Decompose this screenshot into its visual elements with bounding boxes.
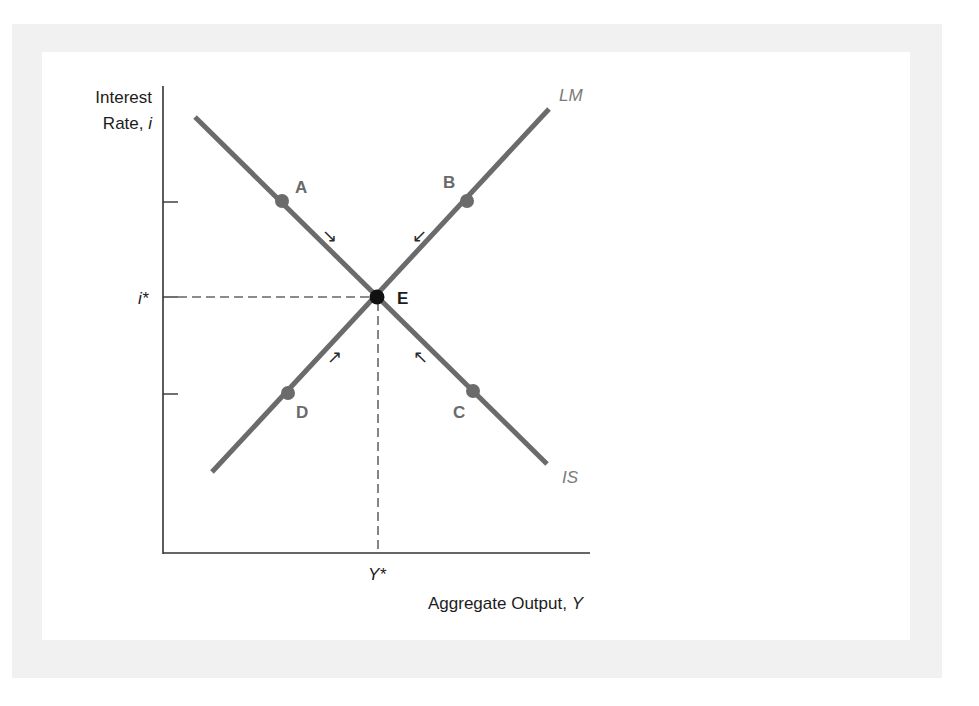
point-a xyxy=(275,194,289,208)
label-e: E xyxy=(397,289,408,308)
point-d xyxy=(281,386,295,400)
x-axis-title: Aggregate Output, Y xyxy=(428,594,585,613)
point-b xyxy=(460,194,474,208)
is-lm-diagram: A B C D E ↘ ↙ ↖ ↗ LM IS i* Y* Interest R… xyxy=(0,0,979,706)
label-d: D xyxy=(296,403,308,422)
arrow-down-right-icon: ↘ xyxy=(322,226,337,246)
arrow-up-left-icon: ↖ xyxy=(413,347,428,367)
y-axis-title-line2: Rate, i xyxy=(103,114,153,133)
label-a: A xyxy=(295,178,307,197)
label-c: C xyxy=(453,403,465,422)
y-axis-title-line1: Interest xyxy=(95,88,152,107)
is-curve-label: IS xyxy=(562,468,579,487)
lm-curve-label: LM xyxy=(559,86,583,105)
point-e-equilibrium xyxy=(370,290,385,305)
y-axis-title-text: Rate, xyxy=(103,114,148,133)
arrow-down-left-icon: ↙ xyxy=(412,226,427,246)
y-star-label: Y* xyxy=(368,565,387,584)
x-axis-title-var: Y xyxy=(572,594,585,613)
arrow-up-right-icon: ↗ xyxy=(327,347,342,367)
i-star-label: i* xyxy=(138,289,150,308)
label-b: B xyxy=(443,173,455,192)
point-c xyxy=(466,384,480,398)
x-axis-title-text: Aggregate Output, xyxy=(428,594,572,613)
y-axis-title-var: i xyxy=(148,114,153,133)
